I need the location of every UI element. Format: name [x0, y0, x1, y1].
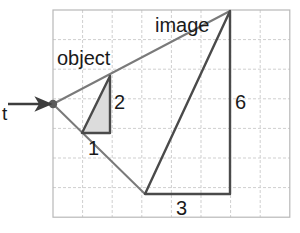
image-triangle: [145, 11, 230, 194]
image-label: image: [155, 15, 209, 35]
lens-marker-label: t: [2, 104, 7, 123]
image-base-dimension-label: 3: [176, 198, 187, 218]
object-label: object: [57, 48, 110, 68]
geometry-diagram: [0, 0, 300, 233]
lens-point: [49, 100, 57, 108]
figure-canvas: object image 1 2 3 6 t: [0, 0, 300, 233]
object-base-dimension-label: 1: [88, 138, 99, 158]
image-height-dimension-label: 6: [235, 92, 246, 112]
object-height-dimension-label: 2: [114, 92, 125, 112]
